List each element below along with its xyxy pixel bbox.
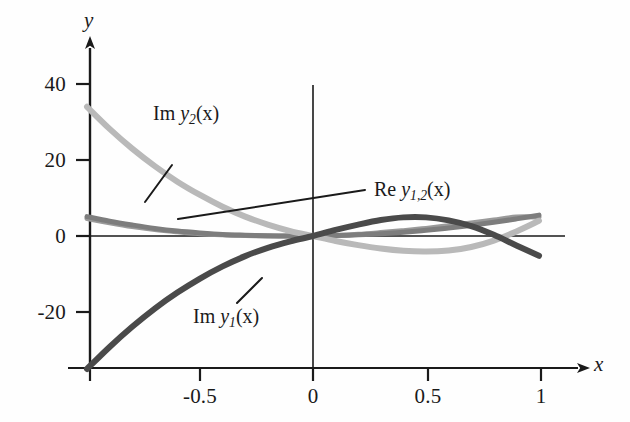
chart-plot-area — [0, 0, 630, 422]
im-y1-prefix: Im — [193, 305, 220, 327]
curve-label-re-y12: Re y1,2(x) — [374, 178, 450, 204]
y-tick-label-0: 0 — [28, 224, 66, 249]
y-tick-label-minus-20: -20 — [18, 300, 66, 325]
im-y2-prefix: Im — [153, 102, 180, 124]
figure-container: 40 20 0 -20 -0.5 0 0.5 1 y x Im y2(x) Re… — [0, 0, 630, 422]
re-y12-argument: (x) — [427, 178, 450, 200]
re-y12-prefix: Re — [374, 178, 401, 200]
x-axis-title: x — [594, 352, 603, 377]
y-tick-label-40: 40 — [28, 72, 66, 97]
im-y2-symbol: y — [180, 102, 189, 124]
im-y1-symbol: y — [220, 305, 229, 327]
re-y12-symbol: y — [401, 178, 410, 200]
x-axis-ticks — [90, 368, 541, 381]
x-tick-label-0: 0 — [293, 384, 333, 409]
im-y1-subscript: 1 — [229, 315, 236, 330]
re-y12-subscript: 1,2 — [410, 188, 427, 203]
x-tick-label-0-5: 0.5 — [400, 384, 456, 409]
curve-label-im-y1: Im y1(x) — [193, 305, 259, 331]
im-y2-subscript: 2 — [189, 112, 196, 127]
y-tick-label-20: 20 — [28, 148, 66, 173]
leader-line-im-y1 — [237, 278, 262, 303]
im-y2-argument: (x) — [196, 102, 219, 124]
y-axis-title: y — [84, 8, 93, 33]
x-tick-label-1: 1 — [521, 384, 561, 409]
y-axis-ticks — [76, 84, 90, 312]
x-tick-label-minus-0-5: -0.5 — [168, 384, 232, 409]
curve-label-im-y2: Im y2(x) — [153, 102, 219, 128]
leader-line-re-y12 — [178, 190, 365, 219]
im-y1-argument: (x) — [236, 305, 259, 327]
